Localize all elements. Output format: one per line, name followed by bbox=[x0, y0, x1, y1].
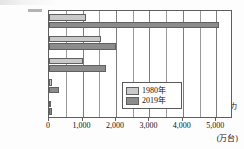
chart-legend: 1980年 2019年 bbox=[122, 82, 182, 109]
legend-item-2019: 2019年 bbox=[126, 96, 178, 105]
top-edge-artifact-mark bbox=[28, 9, 42, 12]
top-edge-artifact bbox=[0, 0, 60, 5]
tick-label-3,000: 3,000 bbox=[139, 121, 157, 131]
bar-ア-1980年 bbox=[49, 14, 86, 21]
axis-unit-label: (万台) bbox=[217, 132, 238, 143]
bar-ウ-1980年 bbox=[49, 58, 83, 65]
tick-label-1,000: 1,000 bbox=[73, 121, 91, 131]
bar-イ-2019年 bbox=[49, 43, 116, 50]
chart-screenshot: アイウエアフリカ 1980年 2019年 01,0002,0003,0004,0… bbox=[0, 0, 244, 149]
tick-label-4,000: 4,000 bbox=[173, 121, 191, 131]
legend-label-1980: 1980年 bbox=[142, 86, 166, 95]
bar-イ-1980年 bbox=[49, 36, 101, 43]
bar-ウ-2019年 bbox=[49, 65, 106, 72]
tick-label-5,000: 5,000 bbox=[206, 121, 224, 131]
bar-エ-2019年 bbox=[49, 87, 59, 94]
legend-item-1980: 1980年 bbox=[126, 86, 178, 95]
legend-swatch-1980 bbox=[126, 87, 139, 95]
tick-label-0: 0 bbox=[46, 121, 50, 131]
bar-エ-1980年 bbox=[49, 79, 52, 86]
tick-label-2,000: 2,000 bbox=[106, 121, 124, 131]
bar-アフリカ-1980年 bbox=[49, 101, 51, 108]
bar-ア-2019年 bbox=[49, 22, 219, 29]
legend-label-2019: 2019年 bbox=[142, 96, 166, 105]
legend-swatch-2019 bbox=[126, 97, 139, 105]
bar-アフリカ-2019年 bbox=[49, 108, 52, 115]
